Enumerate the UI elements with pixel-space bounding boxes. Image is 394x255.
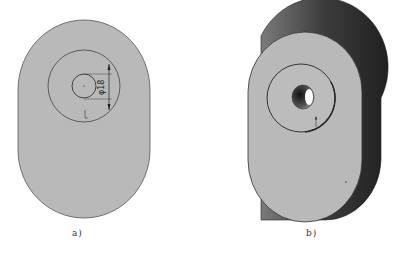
speck [345, 181, 347, 183]
caption-b: b) [306, 228, 317, 238]
part-3d-render [195, 0, 394, 255]
figure-b-3d-view: b) [195, 0, 394, 255]
center-point [83, 85, 84, 86]
part-2d-drawing: φ18 [0, 0, 200, 255]
dimension-label: φ18 [97, 80, 106, 95]
caption-a: a) [72, 228, 83, 238]
figure-a-front-view: φ18 a) [0, 0, 200, 255]
through-hole-light [305, 89, 313, 105]
